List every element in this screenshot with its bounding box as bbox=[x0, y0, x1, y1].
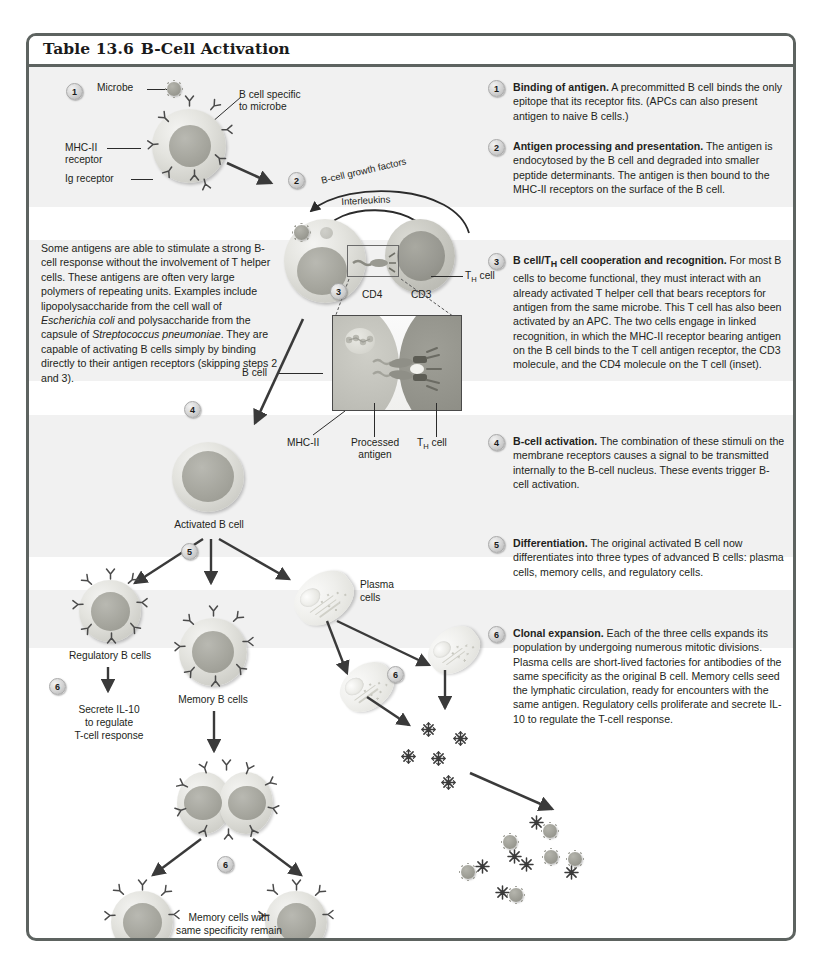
step-badge-1: 1 bbox=[66, 83, 83, 100]
ig-receptor-icon bbox=[243, 636, 254, 647]
ig-receptor-icon bbox=[199, 178, 212, 191]
mitosis-nucleus-left bbox=[184, 786, 222, 821]
antibody-icon bbox=[475, 859, 490, 874]
microbe-particle bbox=[167, 82, 181, 96]
step-badge-2: 2 bbox=[288, 172, 305, 189]
ig-receptor-icon bbox=[106, 633, 117, 644]
step-1: 1 Binding of antigen. A precommitted B c… bbox=[481, 80, 793, 123]
regulatory-b-cell-nucleus bbox=[91, 592, 130, 631]
ig-receptor-icon bbox=[104, 910, 115, 921]
step-6-title: Clonal expansion. bbox=[513, 627, 604, 639]
ig-receptor-icon bbox=[174, 641, 185, 652]
label-processed-antigen-1: Processed bbox=[337, 437, 413, 449]
activated-b-cell-nucleus bbox=[182, 451, 234, 502]
step-3-text: B cell/TH cell cooperation and recogniti… bbox=[513, 253, 785, 371]
sidenote-part-1: Some antigens are able to stimulate a st… bbox=[41, 242, 270, 312]
antibody-icon bbox=[421, 722, 436, 737]
step-badge-1-text: 1 bbox=[488, 80, 505, 97]
leader-ig bbox=[131, 179, 153, 180]
memory-b-cell-nucleus bbox=[192, 631, 234, 673]
step-1-text: Binding of antigen. A precommitted B cel… bbox=[513, 80, 785, 123]
label-plasma-cells-1: Plasma bbox=[360, 579, 394, 591]
label-memory-remain-2: same specificity remain bbox=[139, 925, 319, 937]
label-secrete-2: to regulate bbox=[51, 717, 167, 729]
arrow-antibody-secretion-2 bbox=[435, 670, 455, 716]
label-bcell-specific-1: B cell specific bbox=[239, 89, 301, 101]
antigen-particle bbox=[503, 835, 517, 849]
step-badge-6c: 6 bbox=[217, 856, 234, 873]
sidenote-text: Some antigens are able to stimulate a st… bbox=[41, 241, 279, 385]
inset-peptide-chain-icon bbox=[343, 330, 375, 354]
step-badge-6b: 6 bbox=[387, 666, 404, 683]
step-badge-5-text: 5 bbox=[488, 536, 505, 553]
ig-receptor-icon bbox=[137, 597, 148, 608]
synapse-inset bbox=[332, 315, 462, 411]
antibody-icon bbox=[441, 775, 456, 790]
step-4-text: B-cell activation. The combination of th… bbox=[513, 434, 785, 491]
label-processed-antigen-2: antigen bbox=[337, 449, 413, 461]
antibody-icon bbox=[519, 857, 534, 872]
label-mhc-ii-receptor-1: MHC-II bbox=[65, 142, 97, 154]
page-title: B-Cell Activation bbox=[141, 39, 290, 58]
table-number: Table 13.6 bbox=[43, 39, 134, 58]
step-2-title: Antigen processing and presentation. bbox=[513, 140, 703, 152]
step-2: 2 Antigen processing and presentation. T… bbox=[481, 139, 793, 196]
arrow-memory-expansion bbox=[207, 711, 221, 759]
ig-receptor-icon bbox=[291, 879, 302, 890]
step-3: 3 B cell/TH cell cooperation and recogni… bbox=[481, 253, 793, 371]
ig-receptor-icon bbox=[208, 605, 219, 616]
label-microbe: Microbe bbox=[97, 82, 133, 94]
antigen-particle bbox=[544, 850, 558, 864]
ig-receptor-icon bbox=[184, 95, 195, 106]
step-4-title: B-cell activation. bbox=[513, 435, 597, 447]
leader-mhc-ii-inset bbox=[309, 411, 349, 437]
mhc-ii-receptor-icon bbox=[147, 139, 159, 151]
label-th-cell-inset-tail: cell bbox=[429, 437, 447, 448]
ig-receptor-icon bbox=[222, 124, 233, 135]
step-5-title: Differentiation. bbox=[513, 537, 588, 549]
illustration: 1 Microbe B cell specific to microbe bbox=[29, 67, 481, 941]
step-5: 5 Differentiation. The original activate… bbox=[481, 536, 793, 579]
step-6-body: Each of the three cells expands its popu… bbox=[513, 627, 782, 725]
label-activated-b-cell: Activated B cell bbox=[151, 519, 267, 531]
ig-receptor-icon bbox=[105, 568, 116, 579]
sidenote-italic-1: Escherichia coli bbox=[41, 314, 115, 326]
step-2-text: Antigen processing and presentation. The… bbox=[513, 139, 785, 196]
label-plasma-cells-2: cells bbox=[360, 592, 380, 604]
step-badge-6-text: 6 bbox=[488, 626, 505, 643]
label-memory-remain-1: Memory cells with bbox=[139, 912, 319, 924]
vesicle bbox=[320, 227, 333, 239]
step-3-title: B cell/TH cell cooperation and recogniti… bbox=[513, 254, 727, 266]
leader-th-cell-inset bbox=[436, 403, 437, 437]
label-cd4: CD4 bbox=[362, 289, 382, 301]
label-bcell-specific-2: to microbe bbox=[239, 101, 287, 113]
step-badge-3: 3 bbox=[330, 283, 347, 300]
antigen-particle bbox=[568, 852, 582, 866]
step-badge-4-text: 4 bbox=[488, 434, 505, 451]
antibody-icon bbox=[401, 749, 416, 764]
step-1-title: Binding of antigen. bbox=[513, 81, 609, 93]
label-mhc-ii-receptor-2: receptor bbox=[65, 154, 102, 166]
ig-receptor-icon bbox=[210, 676, 221, 687]
ig-receptor-icon bbox=[221, 759, 232, 770]
figure-page: Table 13.6B-Cell Activation 1 Microbe B … bbox=[0, 0, 824, 970]
arrow-antibody-binding bbox=[466, 767, 572, 817]
leader-processed-antigen bbox=[374, 403, 375, 437]
step-4: 4 B-cell activation. The combination of … bbox=[481, 434, 793, 491]
step-5-text: Differentiation. The original activated … bbox=[513, 536, 785, 579]
step-badge-6a: 6 bbox=[49, 678, 66, 695]
label-interleukins: Interleukins bbox=[341, 193, 391, 208]
step-6-text: Clonal expansion. Each of the three cell… bbox=[513, 626, 785, 726]
step-3-body: For most B cells to become functional, t… bbox=[513, 254, 782, 370]
arrow-regulatory-secretion bbox=[101, 667, 115, 701]
leader-mhc-ii bbox=[107, 148, 141, 149]
label-memory-remain-3: in lymphatic circulation bbox=[139, 938, 319, 941]
step-badge-5: 5 bbox=[181, 543, 198, 560]
ig-receptor-icon bbox=[137, 879, 148, 890]
leader-microbe bbox=[147, 89, 167, 90]
label-secrete-3: T-cell response bbox=[51, 730, 167, 742]
table-header: Table 13.6B-Cell Activation bbox=[29, 36, 793, 67]
figure-body: 1 Microbe B cell specific to microbe bbox=[29, 67, 793, 941]
endocytosed-microbe bbox=[294, 225, 309, 240]
dividing-memory-b-cell bbox=[177, 772, 273, 834]
